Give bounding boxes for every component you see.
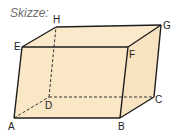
parallelepiped-diagram: A B C D E F G H: [0, 0, 178, 136]
vertex-label-C: C: [155, 94, 162, 105]
vertex-label-F: F: [129, 49, 135, 60]
vertex-label-G: G: [163, 20, 171, 31]
vertex-label-E: E: [14, 41, 21, 52]
vertex-label-B: B: [118, 121, 125, 132]
vertex-label-H: H: [53, 14, 60, 25]
vertex-label-A: A: [8, 121, 15, 132]
vertex-label-D: D: [45, 100, 52, 111]
